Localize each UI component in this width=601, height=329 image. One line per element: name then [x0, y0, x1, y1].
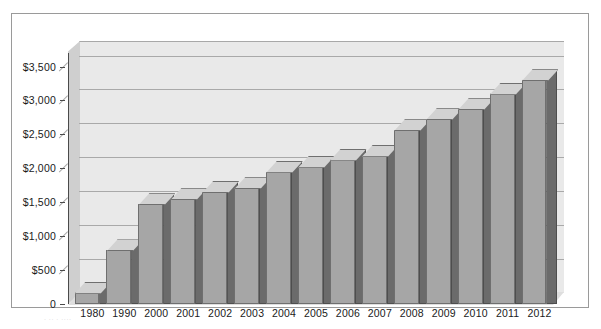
x-tick-label-2000: 2000	[144, 307, 168, 319]
x-tick-label-2011: 2011	[496, 307, 519, 319]
x-tick-label-2005: 2005	[304, 307, 328, 319]
y-axis-spine	[68, 53, 69, 304]
scan-artifact-text: · ·· · ····	[44, 316, 72, 322]
gridline	[79, 56, 564, 57]
x-tick-label-2010: 2010	[464, 307, 488, 319]
y-tick-mark	[60, 270, 65, 271]
y-tick-mark	[60, 168, 65, 169]
y-tick-label: $3,000	[23, 94, 56, 106]
bar-2010[interactable]	[458, 109, 483, 304]
x-tick-label-1980: 1980	[80, 307, 104, 319]
x-tick-label-2001: 2001	[176, 307, 200, 319]
bar-2004[interactable]	[266, 172, 291, 304]
bar-2006[interactable]	[330, 160, 355, 304]
bar-2007[interactable]	[362, 156, 387, 304]
plot-area	[68, 41, 564, 316]
bar-front-face	[298, 167, 323, 304]
y-tick-mark	[60, 304, 65, 305]
x-tick-label-2004: 2004	[272, 307, 296, 319]
bar-front-face	[266, 172, 291, 304]
y-tick-label: $1,000	[23, 230, 56, 242]
bar-front-face	[170, 199, 195, 304]
y-tick-mark	[60, 236, 65, 237]
x-tick-label-2007: 2007	[368, 307, 392, 319]
chart-screenshot: 0$500$1,000$1,500$2,000$2,500$3,000$3,50…	[0, 0, 601, 329]
bar-2009[interactable]	[426, 119, 451, 304]
bar-front-face	[75, 293, 100, 304]
y-tick-label: $500	[32, 264, 56, 276]
bar-2005[interactable]	[298, 167, 323, 304]
bar-front-face	[138, 204, 163, 304]
x-tick-label-2012: 2012	[527, 307, 551, 319]
bar-side-face	[546, 69, 557, 304]
y-axis-labels: 0$500$1,000$1,500$2,000$2,500$3,000$3,50…	[10, 14, 56, 289]
bar-front-face	[362, 156, 387, 304]
bar-2000[interactable]	[138, 204, 163, 304]
bar-2011[interactable]	[490, 94, 515, 304]
bar-2003[interactable]	[234, 188, 259, 304]
y-tick-label: $3,500	[23, 61, 56, 73]
y-tick-mark	[60, 100, 65, 101]
x-tick-label-2002: 2002	[208, 307, 232, 319]
x-axis-labels: 1980199020002001200220032004200520062007…	[68, 307, 564, 323]
bar-1990[interactable]	[106, 250, 131, 304]
bar-front-face	[458, 109, 483, 304]
gridline	[79, 89, 564, 90]
x-tick-label-2006: 2006	[336, 307, 360, 319]
y-tick-label: $2,000	[23, 162, 56, 174]
y-tick-mark	[60, 134, 65, 135]
bar-front-face	[106, 250, 131, 304]
bar-2012[interactable]	[522, 80, 547, 304]
bar-front-face	[234, 188, 259, 304]
y-tick-label: $2,500	[23, 128, 56, 140]
bar-front-face	[522, 80, 547, 304]
bar-front-face	[330, 160, 355, 304]
bar-1980[interactable]	[75, 293, 100, 304]
y-tick-mark	[60, 67, 65, 68]
chart-frame: 0$500$1,000$1,500$2,000$2,500$3,000$3,50…	[11, 13, 589, 308]
x-tick-label-2003: 2003	[240, 307, 264, 319]
x-tick-label-1990: 1990	[112, 307, 136, 319]
y-tick-label: 0	[50, 298, 56, 310]
bar-2001[interactable]	[170, 199, 195, 304]
bar-front-face	[394, 130, 419, 304]
x-tick-label-2009: 2009	[432, 307, 456, 319]
x-tick-label-2008: 2008	[400, 307, 424, 319]
bar-front-face	[490, 94, 515, 304]
y-tick-label: $1,500	[23, 196, 56, 208]
bar-front-face	[202, 192, 227, 304]
bar-front-face	[426, 119, 451, 304]
bar-2008[interactable]	[394, 130, 419, 304]
bar-2002[interactable]	[202, 192, 227, 304]
y-tick-mark	[60, 202, 65, 203]
